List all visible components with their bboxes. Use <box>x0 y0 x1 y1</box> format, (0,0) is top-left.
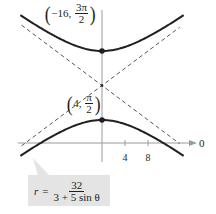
upper-vertex-label: ( −16, 3π 2 ) <box>44 2 96 25</box>
asymptote-line <box>22 25 180 144</box>
vertex-point <box>99 48 105 54</box>
x-tick-label: 8 <box>146 152 151 163</box>
polar-axis-label: 0 <box>199 137 205 149</box>
equation-callout: r = 32 3 + 5 sin θ <box>28 175 110 206</box>
close-paren: ) <box>90 3 96 25</box>
close-paren: ) <box>95 93 101 115</box>
comma: , <box>69 8 75 19</box>
callout-pointer <box>33 158 50 176</box>
open-paren: ( <box>45 3 51 25</box>
equation-denominator: 3 + 5 sin θ <box>54 192 100 203</box>
equation-fraction: 32 3 + 5 sin θ <box>54 180 100 203</box>
lower-vertex-label: ( 4, π 2 ) <box>66 92 101 115</box>
equation-equals: = <box>42 185 48 197</box>
x-tick-label: 4 <box>123 152 128 163</box>
center-point <box>101 84 104 87</box>
theta-denominator: 2 <box>86 104 92 115</box>
theta-denominator: 2 <box>79 14 85 25</box>
open-paren: ( <box>67 93 73 115</box>
equation: r = 32 3 + 5 sin θ <box>34 176 101 206</box>
upper-vertex-theta: 3π 2 <box>75 2 88 25</box>
lower-vertex-theta: π 2 <box>85 92 93 115</box>
vertex-point <box>99 117 105 123</box>
equation-numerator: 32 <box>69 180 84 192</box>
equation-lhs: r <box>34 185 38 197</box>
comma: , <box>79 98 85 109</box>
asymptote-line <box>22 27 180 146</box>
polar-axis-arrowhead <box>189 140 197 146</box>
upper-vertex-r: −16 <box>51 8 68 19</box>
